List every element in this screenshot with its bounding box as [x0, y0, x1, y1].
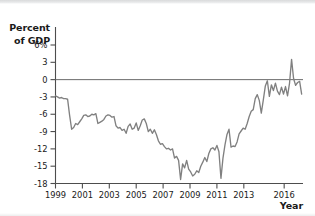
- y-tick-label: -12: [34, 144, 48, 154]
- y-axis-title-line2: of GDP: [14, 35, 50, 46]
- y-tick-label: 0: [42, 75, 47, 85]
- x-axis-ticks: 199920012003200520072009201120132016: [45, 184, 295, 200]
- y-tick-label: -6: [39, 109, 47, 119]
- x-tick-label: 2007: [153, 190, 174, 200]
- y-tick-label: -15: [34, 161, 48, 171]
- data-line: [56, 59, 302, 179]
- y-axis-ticks: 6%30-3-6-9-12-15-18: [34, 40, 56, 189]
- x-tick-label: 2009: [179, 190, 200, 200]
- x-tick-label: 2011: [206, 190, 227, 200]
- chart-figure: 6%30-3-6-9-12-15-18 19992001200320052007…: [0, 0, 315, 216]
- x-tick-label: 2003: [99, 190, 120, 200]
- y-tick-label: 3: [42, 57, 47, 67]
- x-tick-label: 2005: [126, 190, 147, 200]
- x-axis-title: Year: [279, 200, 304, 211]
- y-axis-title-line1: Percent: [9, 22, 50, 33]
- data-series-group: [56, 59, 302, 179]
- y-tick-label: -18: [34, 179, 48, 189]
- x-tick-label: 2001: [72, 190, 93, 200]
- y-tick-label: -9: [39, 127, 47, 137]
- line-chart-svg: 6%30-3-6-9-12-15-18 19992001200320052007…: [0, 0, 315, 216]
- x-tick-label: 2013: [233, 190, 254, 200]
- x-tick-label: 2016: [274, 190, 295, 200]
- x-tick-label: 1999: [45, 190, 66, 200]
- y-tick-label: -3: [39, 92, 47, 102]
